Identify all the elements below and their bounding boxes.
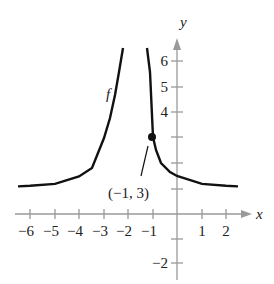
svg-text:−4: −4 <box>67 223 83 239</box>
y-axis <box>171 46 183 280</box>
point-label: (−1, 3) <box>108 185 149 202</box>
x-axis-label: x <box>255 206 263 222</box>
y-axis-arrow-icon <box>173 38 181 50</box>
svg-text:1: 1 <box>198 223 206 239</box>
point-leader-line <box>141 146 148 176</box>
point-marker <box>148 133 156 141</box>
curve-label-f: f <box>106 86 112 102</box>
svg-text:−3: −3 <box>92 223 108 239</box>
curve-f-left <box>18 48 123 186</box>
x-axis <box>15 209 245 219</box>
x-axis-arrow-icon <box>241 210 252 218</box>
svg-text:6: 6 <box>161 53 169 69</box>
svg-text:−1: −1 <box>141 223 157 239</box>
chart: y x f (−1, 3) 6 5 4 −2 −6 −5 −4 −3 −2 −1… <box>0 0 274 284</box>
svg-text:−5: −5 <box>43 223 59 239</box>
svg-text:−2: −2 <box>152 255 168 271</box>
svg-text:4: 4 <box>161 104 169 120</box>
x-tick-labels: −6 −5 −4 −3 −2 −1 1 2 <box>18 223 230 239</box>
svg-text:−2: −2 <box>116 223 132 239</box>
y-axis-label: y <box>178 14 187 30</box>
svg-text:5: 5 <box>161 79 169 95</box>
svg-text:−6: −6 <box>18 223 34 239</box>
svg-text:2: 2 <box>222 223 230 239</box>
